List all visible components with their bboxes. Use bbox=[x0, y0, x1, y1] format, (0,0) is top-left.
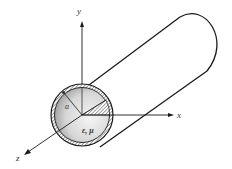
cylinder-diagram: y x z a ε, μ bbox=[0, 0, 232, 169]
material-label: ε, μ bbox=[82, 126, 94, 135]
z-axis-label: z bbox=[15, 153, 20, 163]
radius-label: a bbox=[65, 102, 69, 111]
y-axis-label: y bbox=[76, 6, 81, 16]
x-axis-label: x bbox=[176, 110, 181, 120]
